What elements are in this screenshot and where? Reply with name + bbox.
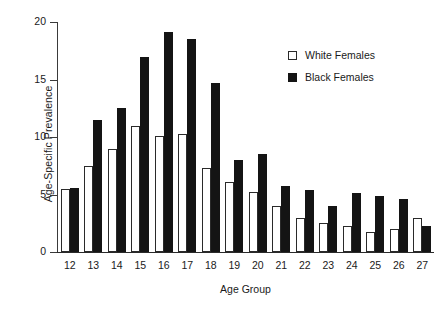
bar-black-females xyxy=(305,190,314,252)
plot-area: 05101520 xyxy=(57,22,434,253)
bar-black-females xyxy=(117,108,126,252)
legend-label: Black Females xyxy=(305,71,374,83)
bar-white-females xyxy=(319,223,328,252)
bar-group xyxy=(129,22,153,252)
bar-black-females xyxy=(211,83,220,252)
bar-black-females xyxy=(375,196,384,252)
bar-group xyxy=(411,22,435,252)
bar-white-females xyxy=(131,126,140,253)
bar-white-females xyxy=(296,218,305,253)
y-axis-title: Age-Specific Prevalence xyxy=(42,34,54,254)
bar-group xyxy=(82,22,106,252)
x-axis-tick-label: 21 xyxy=(270,259,294,271)
x-axis-tick-labels: 12131415161718192021222324252627 xyxy=(58,259,434,271)
x-axis-tick-label: 19 xyxy=(223,259,247,271)
bar-group xyxy=(152,22,176,252)
x-axis-tick-label: 25 xyxy=(364,259,388,271)
y-axis-tick-label: 10 xyxy=(34,130,46,142)
y-axis-tick: 20 xyxy=(50,22,57,23)
legend-item: Black Females xyxy=(288,66,375,88)
x-axis-tick-label: 20 xyxy=(246,259,270,271)
x-axis-tick-label: 13 xyxy=(82,259,106,271)
legend-swatch-open-square xyxy=(288,51,297,60)
x-axis-tick-label: 22 xyxy=(293,259,317,271)
bar-white-females xyxy=(202,168,211,252)
bar-group xyxy=(199,22,223,252)
bar-black-females xyxy=(258,154,267,252)
x-axis-tick-label: 23 xyxy=(317,259,341,271)
bar-white-females xyxy=(108,149,117,253)
bar-black-females xyxy=(140,57,149,253)
x-axis-tick-label: 12 xyxy=(58,259,82,271)
bar-group xyxy=(58,22,82,252)
x-axis-tick-label: 14 xyxy=(105,259,129,271)
bar-black-females xyxy=(399,199,408,252)
bar-black-females xyxy=(164,32,173,252)
x-axis-tick-label: 16 xyxy=(152,259,176,271)
bar-white-females xyxy=(61,189,70,252)
bar-white-females xyxy=(155,136,164,252)
y-axis-tick-label: 5 xyxy=(40,188,46,200)
x-axis-tick-label: 17 xyxy=(176,259,200,271)
y-axis-tick: 5 xyxy=(50,195,57,196)
chart-figure: Age-Specific Prevalence 05101520 1213141… xyxy=(0,0,440,322)
bar-black-females xyxy=(422,226,431,252)
bar-white-females xyxy=(343,226,352,252)
bar-white-females xyxy=(178,134,187,252)
x-axis-title: Age Group xyxy=(57,283,434,295)
y-axis-tick-label: 0 xyxy=(40,245,46,257)
x-axis-tick-label: 18 xyxy=(199,259,223,271)
x-axis-tick-label: 24 xyxy=(340,259,364,271)
bar-group xyxy=(176,22,200,252)
bar-series-container xyxy=(58,22,434,252)
bar-white-females xyxy=(225,182,234,252)
legend-item: White Females xyxy=(288,44,375,66)
bar-white-females xyxy=(390,229,399,252)
x-axis-tick-label: 27 xyxy=(411,259,435,271)
bar-white-females xyxy=(249,192,258,252)
bar-white-females xyxy=(366,232,375,252)
bar-group xyxy=(105,22,129,252)
bar-black-females xyxy=(352,193,361,252)
bar-black-females xyxy=(234,160,243,252)
y-axis-tick: 0 xyxy=(50,252,57,253)
y-axis-tick-label: 15 xyxy=(34,73,46,85)
bar-black-females xyxy=(93,120,102,252)
bar-group xyxy=(387,22,411,252)
legend-label: White Females xyxy=(305,49,375,61)
y-axis-tick: 10 xyxy=(50,137,57,138)
bar-black-females xyxy=(328,206,337,252)
x-axis-tick-label: 15 xyxy=(129,259,153,271)
bar-black-females xyxy=(70,188,79,252)
bar-white-females xyxy=(413,218,422,253)
bar-white-females xyxy=(84,166,93,252)
bar-black-females xyxy=(281,186,290,252)
y-axis-tick-label: 20 xyxy=(34,15,46,27)
x-axis-tick-label: 26 xyxy=(387,259,411,271)
bar-group xyxy=(223,22,247,252)
bar-black-females xyxy=(187,39,196,252)
bar-group xyxy=(246,22,270,252)
y-axis-tick: 15 xyxy=(50,80,57,81)
chart-legend: White FemalesBlack Females xyxy=(288,44,375,88)
bar-white-females xyxy=(272,206,281,252)
legend-swatch-filled-square xyxy=(288,73,297,82)
